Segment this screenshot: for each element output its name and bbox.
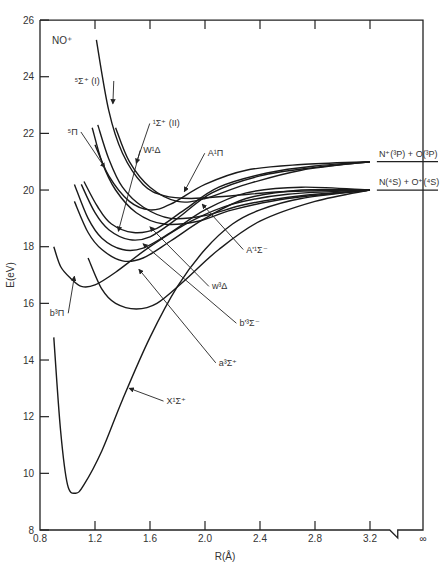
state-label: X¹Σ⁺ — [167, 396, 187, 406]
state-label: W¹Δ — [143, 145, 161, 155]
x-tick-label: 2.4 — [253, 533, 267, 544]
state-label: ⁵Π — [68, 127, 78, 137]
state-label: A¹Π — [208, 148, 224, 158]
asymptote-label: N(⁴S) + O⁺(⁴S) — [379, 177, 440, 187]
y-tick-label: 16 — [23, 298, 35, 309]
state-label: w³Δ — [211, 281, 228, 291]
y-tick-label: 22 — [23, 128, 35, 139]
potential-energy-chart: 81012141618202224260.81.21.62.02.42.83.2… — [0, 0, 440, 570]
state-label: a³Σ⁺ — [219, 358, 238, 368]
y-tick-label: 24 — [23, 71, 35, 82]
x-tick-label: ∞ — [419, 533, 426, 544]
x-axis-label: R(Å) — [215, 550, 236, 562]
y-tick-label: 12 — [23, 411, 35, 422]
x-tick-label: 1.2 — [88, 533, 102, 544]
state-label: A'¹Σ⁻ — [246, 245, 267, 255]
leader-arrow — [68, 276, 74, 313]
species-label: NO⁺ — [52, 35, 72, 46]
y-tick-label: 10 — [23, 468, 35, 479]
x-tick-label: 3.2 — [363, 533, 377, 544]
x-tick-label: 1.6 — [143, 533, 157, 544]
y-tick-label: 18 — [23, 241, 35, 252]
leader-arrow — [129, 388, 163, 401]
axes: 81012141618202224260.81.21.62.02.42.83.2… — [23, 15, 440, 544]
x-tick-label: 2.8 — [308, 533, 322, 544]
asymptote-label: N⁺(³P) + O(³P) — [379, 149, 438, 159]
state-label: b'³Σ⁻ — [239, 318, 259, 328]
y-tick-label: 20 — [23, 185, 35, 196]
curve-w- — [84, 162, 370, 233]
curve-- — [92, 128, 370, 225]
state-label: b³Π — [50, 308, 65, 318]
curve--b — [98, 125, 370, 219]
state-label: ⁵Σ⁺ (I) — [74, 76, 99, 86]
curves — [54, 40, 370, 493]
state-label: ¹Σ⁺ (II) — [153, 118, 180, 128]
x-tick-label: 0.8 — [33, 533, 47, 544]
curve-x- — [54, 190, 370, 493]
leader-arrow — [113, 81, 114, 104]
y-axis-label: E(eV) — [5, 262, 16, 288]
y-tick-label: 26 — [23, 15, 35, 26]
y-tick-label: 14 — [23, 355, 35, 366]
curve-b- — [74, 189, 370, 261]
x-tick-label: 2.0 — [198, 533, 212, 544]
leader-arrow — [139, 269, 216, 362]
